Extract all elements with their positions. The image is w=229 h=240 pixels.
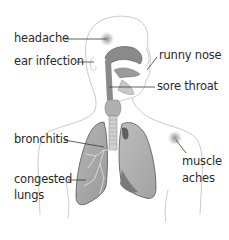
label-muscle: muscle <box>182 153 222 170</box>
label-ear-infection: ear infection <box>14 53 84 70</box>
label-headache: headache <box>14 30 69 47</box>
label-bronchitis: bronchitis <box>14 131 69 148</box>
left-lung <box>76 122 108 205</box>
label-congested: congested <box>14 171 72 188</box>
runny-nose-leader <box>147 57 157 70</box>
muscle-ache-spot <box>167 130 183 146</box>
label-lungs: lungs <box>14 187 44 204</box>
label-sore-throat: sore throat <box>157 78 218 95</box>
label-aches: aches <box>182 170 215 187</box>
label-runny-nose: runny nose <box>159 47 221 64</box>
